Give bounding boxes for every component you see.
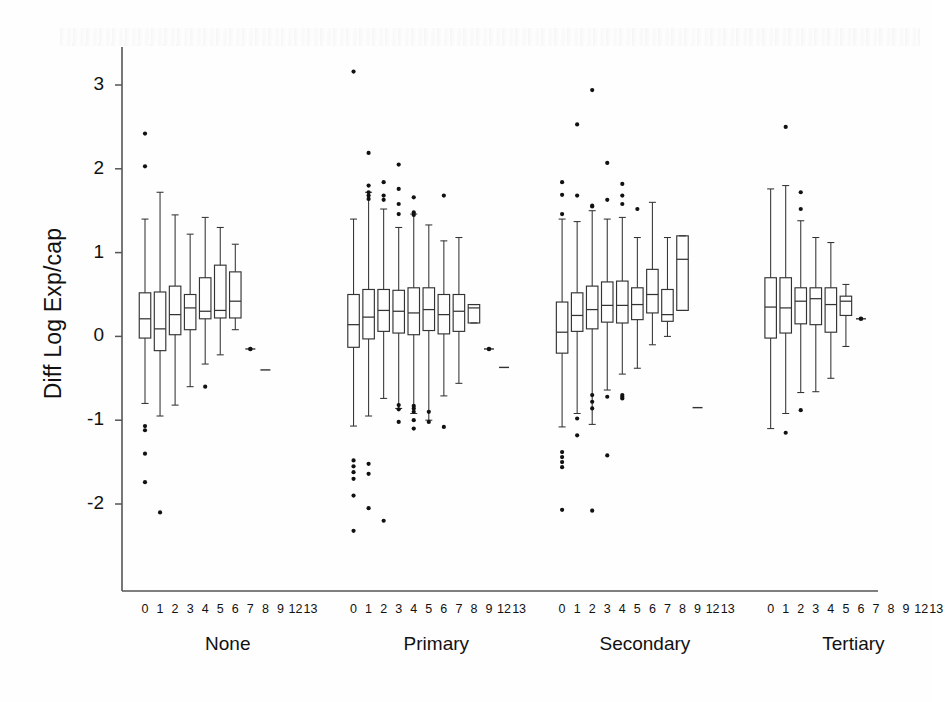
outlier-point — [397, 212, 401, 216]
box-iqr — [780, 278, 792, 333]
boxplot-box — [586, 88, 598, 513]
boxplot-box — [825, 243, 837, 379]
box-iqr — [199, 278, 211, 319]
outlier-point — [397, 187, 401, 191]
outlier-point — [590, 88, 594, 92]
outlier-point — [158, 510, 162, 514]
box-iqr — [617, 281, 629, 323]
outlier-point — [560, 460, 564, 464]
outlier-point — [560, 508, 564, 512]
x-tick-label: 13 — [925, 602, 947, 616]
outlier-point — [620, 393, 624, 397]
outlier-point — [143, 452, 147, 456]
outlier-point — [799, 408, 803, 412]
box-iqr — [453, 295, 465, 332]
outlier-point — [799, 190, 803, 194]
box-iqr — [602, 282, 614, 322]
outlier-point — [412, 426, 416, 430]
boxplot-box — [632, 207, 644, 368]
boxplot-box — [139, 132, 151, 485]
outlier-point — [367, 151, 371, 155]
outlier-point — [367, 197, 371, 201]
boxplot-box — [423, 225, 435, 424]
outlier-point — [590, 406, 594, 410]
box-iqr — [184, 295, 196, 330]
x-tick-label: 13 — [508, 602, 530, 616]
box-iqr — [154, 292, 166, 351]
outlier-point — [397, 202, 401, 206]
outlier-point — [605, 395, 609, 399]
boxplot-box — [677, 236, 689, 311]
outlier-point — [351, 529, 355, 533]
outlier-point — [560, 455, 564, 459]
box-iqr — [556, 302, 568, 353]
outlier-point — [367, 183, 371, 187]
boxplot-box — [154, 192, 166, 514]
box-iqr — [230, 272, 242, 318]
outlier-point — [143, 428, 147, 432]
boxplot-box — [571, 122, 583, 437]
outlier-point — [397, 163, 401, 167]
outlier-point — [367, 472, 371, 476]
outlier-point — [590, 400, 594, 404]
outlier-point — [143, 132, 147, 136]
outlier-point — [143, 424, 147, 428]
boxplot-box — [230, 244, 242, 329]
y-tick-label: 3 — [70, 73, 104, 95]
box-iqr — [348, 295, 360, 348]
boxplot-box — [199, 217, 211, 388]
boxplot-box — [795, 190, 807, 412]
outlier-point — [442, 194, 446, 198]
boxplot-box — [856, 317, 866, 322]
outlier-point — [382, 198, 386, 202]
boxplot-box — [378, 180, 390, 523]
outlier-point — [560, 465, 564, 469]
group-label-primary: Primary — [356, 633, 516, 655]
boxplot-box — [647, 202, 659, 344]
group-label-secondary: Secondary — [565, 633, 725, 655]
outlier-point — [351, 470, 355, 474]
boxplot-box — [840, 284, 852, 346]
outlier-point — [143, 480, 147, 484]
outlier-point — [397, 407, 401, 411]
boxplot-box — [348, 69, 360, 532]
box-iqr — [810, 288, 822, 325]
outlier-point — [620, 182, 624, 186]
outlier-point — [487, 347, 492, 352]
outlier-point — [382, 180, 386, 184]
outlier-point — [784, 125, 788, 129]
outlier-point — [605, 198, 609, 202]
boxplot-box — [765, 189, 777, 429]
boxplot-box — [245, 347, 255, 352]
outlier-point — [590, 204, 594, 208]
outlier-point — [799, 207, 803, 211]
box-iqr — [632, 288, 644, 320]
outlier-point — [412, 213, 416, 217]
x-tick-label: 13 — [300, 602, 322, 616]
outlier-point — [605, 161, 609, 165]
outlier-point — [575, 194, 579, 198]
boxplot-box — [662, 238, 674, 337]
boxplot-box — [408, 195, 420, 430]
outlier-point — [351, 464, 355, 468]
y-tick-label: -2 — [70, 492, 104, 514]
box-iqr — [647, 269, 659, 313]
boxplot-box — [184, 234, 196, 387]
outlier-point — [575, 416, 579, 420]
box-iqr — [169, 286, 181, 335]
boxplot-box — [810, 238, 822, 392]
outlier-point — [575, 433, 579, 437]
outlier-point — [367, 462, 371, 466]
outlier-point — [248, 347, 253, 352]
outlier-point — [590, 509, 594, 513]
outlier-point — [382, 194, 386, 198]
boxplot-box — [556, 180, 568, 512]
outlier-point — [620, 194, 624, 198]
boxplot-box — [453, 238, 465, 384]
x-tick-label: 13 — [717, 602, 739, 616]
outlier-point — [351, 494, 355, 498]
outlier-point — [560, 450, 564, 454]
outlier-point — [575, 122, 579, 126]
y-tick-label: 2 — [70, 157, 104, 179]
